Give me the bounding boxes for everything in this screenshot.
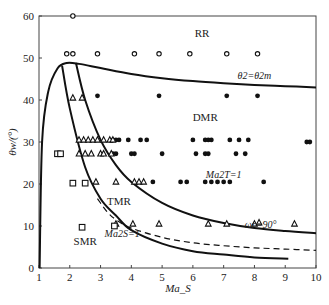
chart: 12345678910 0102030405060 RRDMRTMRSMR θ2… xyxy=(0,0,329,305)
y-tick-label: 50 xyxy=(23,52,35,64)
y-tick-label: 0 xyxy=(29,262,35,274)
filled-circle-marker xyxy=(307,140,312,145)
open-triangle-marker xyxy=(70,95,76,100)
filled-circle-marker xyxy=(184,180,189,185)
filled-circle-marker xyxy=(144,138,149,143)
open-circle-marker xyxy=(71,52,75,56)
filled-circle-marker xyxy=(246,138,251,143)
open-triangle-marker xyxy=(109,151,115,156)
region-label-dmr: DMR xyxy=(193,111,219,123)
open-triangle-marker xyxy=(113,179,119,184)
open-circle-marker xyxy=(188,52,192,56)
filled-circle-marker xyxy=(255,93,260,98)
y-tick-label: 60 xyxy=(23,10,35,22)
region-label-tmr: TMR xyxy=(107,195,132,207)
y-tick-label: 40 xyxy=(23,94,35,106)
filled-circle-marker xyxy=(160,151,165,156)
open-triangle-marker xyxy=(224,221,230,226)
filled-circle-marker xyxy=(138,138,143,143)
open-circle-marker xyxy=(132,52,136,56)
open-triangle-marker xyxy=(141,179,147,184)
filled-circle-marker xyxy=(194,151,199,156)
filled-circle-marker xyxy=(150,180,155,185)
y-axis-title: θw/(°) xyxy=(6,128,19,156)
filled-circle-marker xyxy=(221,180,226,185)
x-tick-label: 10 xyxy=(311,271,323,283)
x-tick-label: 9 xyxy=(282,271,288,283)
open-circle-marker xyxy=(255,52,259,56)
open-triangle-marker xyxy=(130,221,136,226)
x-tick-label: 6 xyxy=(190,271,196,283)
x-tick-label: 8 xyxy=(252,271,258,283)
filled-circle-marker xyxy=(261,180,266,185)
y-tick-label: 30 xyxy=(23,136,35,148)
x-tick-label: 7 xyxy=(221,271,227,283)
filled-circle-marker xyxy=(227,138,232,143)
filled-circle-marker xyxy=(234,151,239,156)
open-triangle-marker xyxy=(110,137,116,142)
y-tick-label: 20 xyxy=(23,178,35,190)
open-circle-marker xyxy=(157,52,161,56)
x-axis-title: Ma_S xyxy=(164,282,191,294)
filled-circle-marker xyxy=(95,93,100,98)
filled-circle-marker xyxy=(243,151,248,156)
filled-circle-marker xyxy=(206,151,211,156)
annotation: Ma2S=1 xyxy=(104,228,140,239)
filled-circle-marker xyxy=(190,138,195,143)
annotation: θ2=θ2m xyxy=(238,70,272,81)
y-tick-label: 10 xyxy=(23,220,35,232)
annotation: ωr=90° xyxy=(245,219,277,230)
open-square-marker xyxy=(79,224,85,230)
filled-circle-marker xyxy=(203,180,208,185)
filled-circle-marker xyxy=(224,93,229,98)
open-circle-marker xyxy=(95,52,99,56)
filled-circle-marker xyxy=(209,180,214,185)
open-circle-marker xyxy=(71,14,75,18)
open-square-marker xyxy=(58,151,64,157)
open-square-marker xyxy=(70,180,76,186)
filled-circle-marker xyxy=(209,138,214,143)
curve-ma2t-1 xyxy=(76,63,316,233)
region-labels: RRDMRTMRSMR xyxy=(74,27,219,247)
filled-circle-marker xyxy=(237,138,242,143)
filled-circle-marker xyxy=(126,138,131,143)
open-circle-marker xyxy=(65,52,69,56)
open-circle-marker xyxy=(225,52,229,56)
open-triangle-marker xyxy=(82,151,88,156)
filled-circle-marker xyxy=(132,151,137,156)
open-triangle-marker xyxy=(89,151,95,156)
region-label-smr: SMR xyxy=(74,235,98,247)
x-tick-label: 3 xyxy=(98,271,104,283)
filled-circle-marker xyxy=(215,180,220,185)
open-square-marker xyxy=(82,180,88,186)
open-triangle-marker xyxy=(292,221,298,226)
open-triangle-marker xyxy=(156,221,162,226)
x-tick-label: 2 xyxy=(67,271,73,283)
filled-circle-marker xyxy=(157,93,162,98)
open-triangle-marker xyxy=(101,137,107,142)
filled-circle-marker xyxy=(227,180,232,185)
open-triangle-marker xyxy=(93,179,99,184)
annotation: Ma2T=1 xyxy=(205,169,242,180)
open-triangle-marker xyxy=(205,221,211,226)
filled-circle-marker xyxy=(178,180,183,185)
filled-circle-marker xyxy=(117,138,122,143)
x-tick-label: 1 xyxy=(36,271,42,283)
x-tick-label: 4 xyxy=(129,271,135,283)
region-label-rr: RR xyxy=(195,27,210,39)
